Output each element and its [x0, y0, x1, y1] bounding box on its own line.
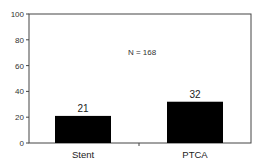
y-tick-label: 40 — [15, 87, 24, 96]
bar-value-label: 32 — [189, 89, 201, 100]
y-tick-label: 60 — [15, 62, 24, 71]
bar-stent — [55, 116, 111, 143]
y-tick-label: 0 — [20, 139, 25, 148]
y-axis: 0 20 40 60 80 100 — [11, 10, 29, 148]
bar-value-label: 21 — [77, 103, 89, 114]
y-tick-label: 20 — [15, 113, 24, 122]
category-label: Stent — [72, 149, 95, 160]
y-tick-label: 80 — [15, 36, 24, 45]
bar-ptca — [167, 102, 223, 143]
y-tick-label: 100 — [11, 10, 25, 19]
bar-chart: 0 20 40 60 80 100 N = 168 21 32 Stent PT… — [0, 0, 264, 164]
sample-size-annotation: N = 168 — [128, 48, 157, 57]
category-label: PTCA — [182, 149, 208, 160]
